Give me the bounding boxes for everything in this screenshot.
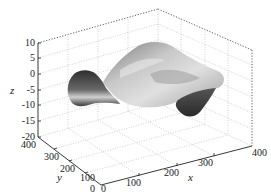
y-tick-300: 300 bbox=[44, 151, 59, 162]
x-tick-300: 300 bbox=[198, 157, 213, 168]
z-tick-5: 5 bbox=[30, 52, 35, 63]
y-tick-400: 400 bbox=[21, 139, 36, 150]
z-tick-0: 0 bbox=[30, 68, 35, 79]
z-tick-10: 10 bbox=[25, 37, 35, 48]
y-tick-100: 100 bbox=[80, 172, 95, 183]
z-tick-neg15: -15 bbox=[22, 115, 35, 126]
surface-plot-figure: 10 5 0 -5 -10 -15 -20 z 400 300 200 100 … bbox=[0, 0, 271, 195]
surface-plot: 10 5 0 -5 -10 -15 -20 z 400 300 200 100 … bbox=[0, 0, 271, 195]
surface bbox=[68, 42, 224, 117]
x-axis-label: x bbox=[187, 171, 193, 183]
x-tick-200: 200 bbox=[164, 167, 179, 178]
z-axis-label: z bbox=[9, 84, 15, 96]
y-tick-0: 0 bbox=[90, 183, 95, 194]
y-axis-label: y bbox=[56, 171, 62, 183]
x-tick-100: 100 bbox=[126, 177, 141, 188]
x-tick-0: 0 bbox=[101, 183, 106, 194]
z-tick-neg5: -5 bbox=[27, 84, 35, 95]
z-tick-neg10: -10 bbox=[22, 99, 35, 110]
y-tick-200: 200 bbox=[60, 163, 75, 174]
x-tick-400: 400 bbox=[252, 147, 267, 158]
